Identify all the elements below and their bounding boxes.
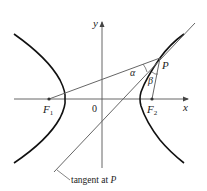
focus-f1-label: F1: [43, 104, 53, 117]
x-axis-label: x: [183, 102, 188, 113]
tangent-label: tangent at P: [71, 176, 116, 186]
angle-alpha-label: α: [130, 68, 135, 78]
hyperbola-left-branch: [14, 34, 65, 163]
origin-label: 0: [92, 104, 97, 114]
angle-alpha-arc: [143, 64, 147, 72]
y-axis-label: y: [93, 18, 98, 29]
hyperbola-right-branch: [140, 34, 184, 163]
focus-f2-label: F2: [147, 104, 157, 117]
hyperbola-diagram: [0, 0, 207, 191]
point-p-label: P: [162, 60, 169, 71]
tangent-line: [54, 23, 195, 172]
focus-f2-dot: [150, 97, 153, 100]
tangent-leader: [57, 170, 70, 180]
angle-beta-label: β: [148, 76, 153, 86]
focus-f1-dot: [47, 97, 50, 100]
